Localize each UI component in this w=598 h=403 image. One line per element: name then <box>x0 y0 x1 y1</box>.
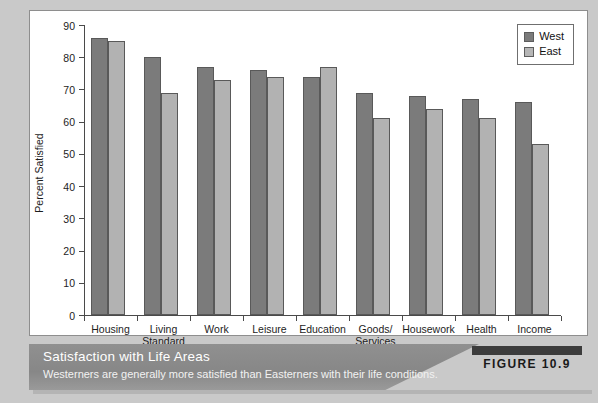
y-tick-label: 20 <box>63 246 75 257</box>
bar-west <box>144 57 161 315</box>
bar-west <box>462 99 479 315</box>
bar-east <box>373 118 390 315</box>
y-tick-label: 0 <box>69 310 75 321</box>
category-label-line: Education <box>296 323 349 335</box>
y-tick-label: 10 <box>63 278 75 289</box>
bar-east <box>267 77 284 315</box>
category-label: Housing <box>84 323 137 335</box>
legend-label-east: East <box>539 46 561 57</box>
caption-bar: Satisfaction with Life Areas Westerners … <box>29 344 588 390</box>
category-label: Leisure <box>243 323 296 335</box>
category-label: Housework <box>402 323 455 335</box>
x-tick <box>296 316 297 321</box>
bar-group <box>84 25 137 315</box>
y-tick-label: 40 <box>63 181 75 192</box>
bar-west <box>250 70 267 315</box>
bar-west <box>91 38 108 315</box>
x-tick <box>508 316 509 321</box>
bar-east <box>532 144 549 315</box>
bar-east <box>479 118 496 315</box>
caption-title: Satisfaction with Life Areas <box>43 349 210 364</box>
x-tick <box>402 316 403 321</box>
legend-swatch-east-icon <box>524 47 534 57</box>
bar-group <box>349 25 402 315</box>
bar-west <box>197 67 214 315</box>
caption-band-wedge <box>359 344 479 390</box>
category-label: Health <box>455 323 508 335</box>
x-tick <box>349 316 350 321</box>
x-tick <box>243 316 244 321</box>
bar-west <box>356 93 373 315</box>
bar-group <box>190 25 243 315</box>
category-label: Work <box>190 323 243 335</box>
category-label-line: Work <box>190 323 243 335</box>
y-tick-label: 80 <box>63 52 75 63</box>
category-label-line: Income <box>508 323 561 335</box>
bar-west <box>409 96 426 315</box>
chart-legend: West East <box>517 24 574 65</box>
figure-container: Percent Satisfied 0102030405060708090 Ho… <box>0 0 598 403</box>
bar-group <box>243 25 296 315</box>
x-axis-line <box>84 315 561 316</box>
bar-group <box>455 25 508 315</box>
caption-shadow <box>33 390 592 394</box>
category-label-line: Housing <box>84 323 137 335</box>
y-tick-label: 30 <box>63 214 75 225</box>
legend-item-east: East <box>524 44 564 59</box>
legend-swatch-west-icon <box>524 32 534 42</box>
category-label: Income <box>508 323 561 335</box>
caption-subtitle: Westerners are generally more satisfied … <box>43 368 438 380</box>
figure-number-label: FIGURE 10.9 <box>466 357 588 371</box>
bar-east <box>214 80 231 315</box>
category-label-line: Leisure <box>243 323 296 335</box>
bar-west <box>303 77 320 315</box>
bar-east <box>161 93 178 315</box>
figure-badge-bar <box>472 346 582 355</box>
category-label-line: Living <box>137 323 190 335</box>
bar-group <box>508 25 561 315</box>
bar-east <box>320 67 337 315</box>
y-axis-title: Percent Satisfied <box>33 133 45 212</box>
x-tick <box>137 316 138 321</box>
legend-item-west: West <box>524 29 564 44</box>
category-label: Education <box>296 323 349 335</box>
y-tick-label: 50 <box>63 149 75 160</box>
legend-label-west: West <box>539 31 564 42</box>
category-label-line: Housework <box>402 323 455 335</box>
bar-group <box>402 25 455 315</box>
bar-east <box>108 41 125 315</box>
y-tick-label: 90 <box>63 20 75 31</box>
y-tick-label: 60 <box>63 117 75 128</box>
chart-panel: Percent Satisfied 0102030405060708090 Ho… <box>29 10 588 336</box>
x-tick <box>190 316 191 321</box>
bar-west <box>515 102 532 315</box>
x-tick <box>561 316 562 321</box>
bar-east <box>426 109 443 315</box>
bar-group <box>137 25 190 315</box>
figure-number-badge: FIGURE 10.9 <box>466 346 588 371</box>
x-tick <box>84 316 85 321</box>
y-tick-label: 70 <box>63 85 75 96</box>
bar-group <box>296 25 349 315</box>
plot-area: 0102030405060708090 HousingLivingStandar… <box>84 25 575 316</box>
category-label-line: Goods/ <box>349 323 402 335</box>
category-label-line: Health <box>455 323 508 335</box>
x-tick <box>455 316 456 321</box>
